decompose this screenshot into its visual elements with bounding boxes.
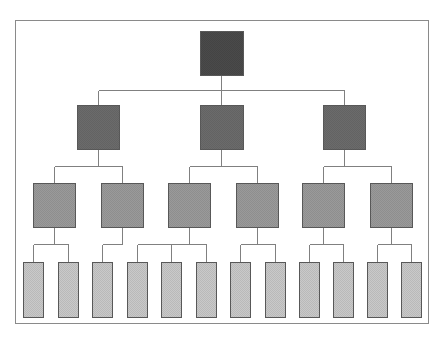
tree-node-level-4 — [231, 263, 251, 318]
tree-node-level-4 — [162, 263, 182, 318]
tree-node-level-3 — [303, 184, 345, 228]
tree-node-level-1 — [201, 32, 244, 76]
tree-nodes — [24, 32, 422, 318]
tree-node-level-4 — [93, 263, 113, 318]
tree-node-level-4 — [59, 263, 79, 318]
tree-node-level-3 — [34, 184, 76, 228]
tree-node-level-3 — [371, 184, 413, 228]
tree-node-level-3 — [237, 184, 279, 228]
tree-node-level-2 — [78, 106, 120, 150]
tree-node-level-3 — [102, 184, 144, 228]
tree-node-level-4 — [24, 263, 44, 318]
tree-node-level-4 — [197, 263, 217, 318]
tree-node-level-4 — [402, 263, 422, 318]
tree-node-level-4 — [368, 263, 388, 318]
tree-node-level-4 — [128, 263, 148, 318]
tree-node-level-2 — [324, 106, 366, 150]
tree-node-level-4 — [300, 263, 320, 318]
tree-node-level-4 — [334, 263, 354, 318]
tree-node-level-2 — [201, 106, 244, 150]
hierarchy-diagram — [0, 0, 445, 338]
tree-node-level-3 — [169, 184, 211, 228]
tree-node-level-4 — [266, 263, 286, 318]
connector-lines — [34, 75, 412, 262]
